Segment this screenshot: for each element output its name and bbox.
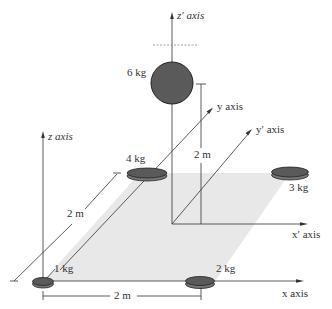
y-axis-arrow-icon <box>207 108 214 115</box>
vertical-dimension-label: 2 m <box>193 149 212 160</box>
y-prime-axis-label: y′ axis <box>256 124 284 135</box>
shaded-plane <box>43 173 290 281</box>
mass-label-4kg: 4 kg <box>126 153 145 164</box>
y-prime-axis-arrow-icon <box>246 129 253 136</box>
y-axis-text: y axis <box>217 100 243 112</box>
disk-2kg <box>186 277 215 289</box>
mass-label-2kg: 2 kg <box>216 263 235 274</box>
x-prime-axis-label: x′ axis <box>292 229 320 240</box>
z-prime-axis-arrow-icon <box>170 12 174 19</box>
disk-4kg <box>127 168 167 181</box>
sphere-6kg <box>151 62 193 104</box>
y-axis-label: y axis <box>217 101 243 112</box>
x-axis-text: x axis <box>282 287 308 299</box>
mass-label-3kg: 3 kg <box>289 182 308 193</box>
z-axis-arrow-icon <box>41 131 45 138</box>
x-axis-arrow-icon <box>296 279 304 283</box>
horizontal-dimension-label: 2 m <box>114 290 131 301</box>
y-prime-axis-text: y′ axis <box>256 123 284 135</box>
x-axis-label: x axis <box>282 288 308 299</box>
x-prime-axis-arrow-icon <box>300 222 308 226</box>
diagonal-dimension-line-upper <box>85 174 117 209</box>
z-axis-text: z axis <box>48 130 73 142</box>
center-of-mass-diagram <box>0 0 332 309</box>
mass-label-6kg: 6 kg <box>127 67 146 78</box>
mass-label-1kg: 1 kg <box>54 263 73 274</box>
z-prime-axis-text: z′ axis <box>177 9 204 21</box>
disk-3kg <box>272 167 309 180</box>
disk-1kg <box>33 278 54 289</box>
diagonal-dimension-label: 2 m <box>67 208 84 219</box>
z-axis-label: z axis <box>48 131 73 142</box>
x-prime-axis-text: x′ axis <box>292 228 320 240</box>
z-prime-axis-label: z′ axis <box>177 10 204 21</box>
